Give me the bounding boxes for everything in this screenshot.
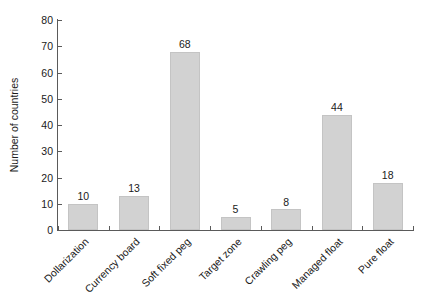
bar-value-label: 5 — [233, 204, 239, 215]
bar: 68 — [170, 52, 200, 231]
x-axis-label-text: Target zone — [197, 236, 243, 282]
plot-area: 01020304050607080 101368584418 Dollariza… — [58, 20, 413, 230]
y-tick-mark — [58, 178, 62, 179]
y-tick-label: 20 — [41, 172, 53, 183]
x-axis-label-text: Pure float — [356, 236, 395, 275]
x-axis-label-text: Currency board — [83, 236, 142, 295]
x-axis-label-text: Dollarization — [43, 236, 91, 284]
y-tick-mark — [58, 99, 62, 100]
x-axis-line — [57, 230, 414, 231]
x-tick-mark — [312, 226, 313, 231]
x-tick-mark — [261, 226, 262, 231]
x-tick-mark — [58, 226, 59, 231]
bar: 44 — [322, 115, 352, 231]
x-axis-label-text: Managed float — [290, 236, 344, 290]
bar: 18 — [373, 183, 403, 230]
y-tick-label: 30 — [41, 146, 53, 157]
bar-value-label: 68 — [179, 39, 191, 50]
bar: 13 — [119, 196, 149, 230]
x-axis-label-text: Soft fixed peg — [139, 236, 192, 289]
x-axis-label: Pure float — [246, 236, 395, 306]
y-tick-label: 80 — [41, 15, 53, 26]
bar-chart-figure: Number of countries 01020304050607080 10… — [0, 0, 440, 306]
x-axis-label: Soft fixed peg — [43, 236, 192, 306]
bar-value-label: 13 — [128, 183, 140, 194]
x-tick-mark — [109, 226, 110, 231]
bar-value-label: 10 — [78, 191, 90, 202]
bar-value-label: 18 — [382, 170, 394, 181]
y-tick-label: 60 — [41, 67, 53, 78]
x-tick-mark — [413, 226, 414, 231]
y-tick-label: 50 — [41, 94, 53, 105]
x-axis-label-text: Crawling peg — [243, 236, 294, 287]
bar-value-label: 8 — [283, 197, 289, 208]
y-tick-mark — [58, 151, 62, 152]
bar: 8 — [271, 209, 301, 230]
x-axis-label: Managed float — [196, 236, 345, 306]
x-tick-mark — [159, 226, 160, 231]
y-tick-label: 10 — [41, 199, 53, 210]
y-tick-mark — [58, 20, 62, 21]
y-tick-mark — [58, 73, 62, 74]
bar: 5 — [221, 217, 251, 230]
x-axis-label: Crawling peg — [145, 236, 294, 306]
bar-value-label: 44 — [331, 102, 343, 113]
bar: 10 — [68, 204, 98, 230]
y-tick-mark — [58, 125, 62, 126]
y-tick-label: 70 — [41, 41, 53, 52]
y-tick-label: 0 — [47, 225, 53, 236]
x-tick-mark — [210, 226, 211, 231]
y-tick-mark — [58, 46, 62, 47]
y-tick-label: 40 — [41, 120, 53, 131]
x-tick-mark — [362, 226, 363, 231]
x-axis-label: Target zone — [94, 236, 243, 306]
y-tick-mark — [58, 204, 62, 205]
y-axis-title: Number of countries — [6, 10, 22, 240]
